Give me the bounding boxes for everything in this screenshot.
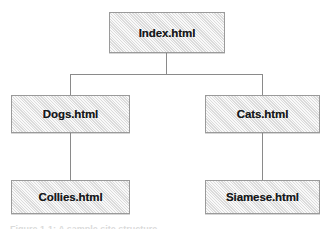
node-label: Dogs.html bbox=[43, 108, 98, 120]
node-label: Index.html bbox=[139, 27, 196, 39]
connector-bus-to-cats bbox=[262, 74, 263, 95]
node-label: Siamese.html bbox=[226, 191, 299, 203]
diagram-canvas: Index.html Dogs.html Cats.html Collies.h… bbox=[0, 0, 329, 229]
node-dogs-html[interactable]: Dogs.html bbox=[11, 95, 130, 133]
node-label: Cats.html bbox=[237, 108, 289, 120]
connector-index-to-bus bbox=[166, 53, 167, 74]
connector-bus-to-dogs bbox=[70, 74, 71, 95]
node-index-html[interactable]: Index.html bbox=[109, 12, 225, 53]
node-siamese-html[interactable]: Siamese.html bbox=[205, 180, 320, 214]
connector-dogs-to-collies bbox=[70, 133, 71, 180]
connector-cats-to-siamese bbox=[262, 133, 263, 180]
figure-caption: Figure 1-1: A sample site structure bbox=[10, 221, 310, 229]
connector-horizontal-bus bbox=[70, 74, 263, 75]
node-cats-html[interactable]: Cats.html bbox=[205, 95, 320, 133]
node-collies-html[interactable]: Collies.html bbox=[11, 180, 130, 214]
node-label: Collies.html bbox=[39, 191, 103, 203]
